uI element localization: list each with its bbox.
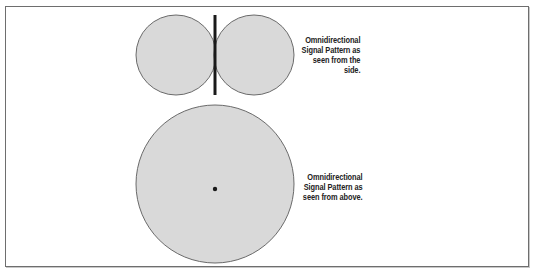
left-lobe (136, 15, 216, 95)
side-view-caption: Omnidirectional Signal Pattern as seen f… (301, 35, 360, 75)
top-view-pattern (136, 105, 294, 263)
side-view-pattern (136, 15, 294, 95)
coverage-circle (136, 105, 294, 263)
signal-pattern-diagram (0, 0, 535, 272)
right-lobe (214, 15, 294, 95)
antenna-dot-icon (213, 187, 217, 191)
top-view-caption: Omnidirectional Signal Pattern as seen f… (303, 172, 363, 202)
